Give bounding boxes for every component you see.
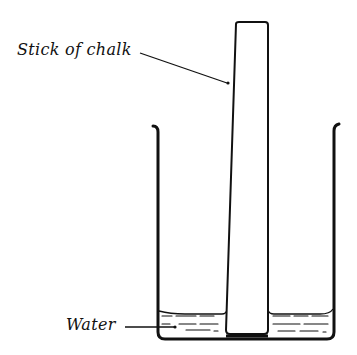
chalk-stick [220,20,278,344]
chalk-label: Stick of chalk [17,40,132,59]
chalk-leader-line [140,53,227,83]
chalk-capillary-diagram: Stick of chalk Water [0,0,357,355]
water-label: Water [66,315,116,334]
leader-lines [125,53,230,329]
